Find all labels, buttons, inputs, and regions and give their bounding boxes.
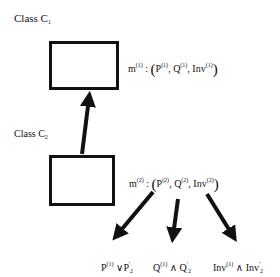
and-operator: ∧	[170, 262, 177, 273]
inheritance-arrow	[82, 98, 89, 154]
post-condition-arrow	[173, 199, 178, 236]
invariant-result: Inv(1) ∧ Inv'2	[213, 261, 263, 274]
arrows-layer	[0, 0, 280, 277]
pre-condition-result: P(1) ∨P'2	[101, 261, 133, 274]
result-left: Inv	[213, 262, 226, 273]
pre-condition-arrow	[117, 192, 153, 235]
invariant-arrow	[207, 194, 233, 236]
result-right: Inv	[246, 262, 259, 273]
result-right: Q	[180, 262, 187, 273]
and-operator: ∧	[236, 262, 243, 273]
post-condition-result: Q(1) ∧ Q'2	[153, 261, 191, 274]
